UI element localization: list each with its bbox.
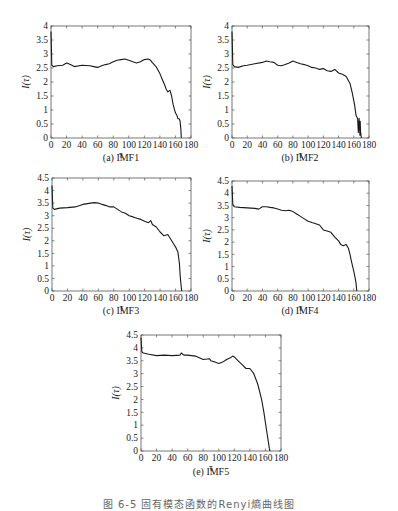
x-tick-label: 60: [183, 453, 193, 463]
y-tick-label: 3: [133, 369, 138, 379]
y-tick-label: 1: [133, 420, 138, 430]
x-tick-label: 0: [139, 453, 144, 463]
data-series-line: [141, 338, 270, 451]
y-tick-label: 4.5: [126, 330, 138, 340]
y-tick-label: 2.5: [126, 382, 138, 392]
y-tick-label: 2: [133, 395, 138, 405]
figure-caption: 图 6-5 固有模态函数的Renyi熵曲线图: [0, 496, 398, 511]
x-tick-label: 180: [274, 453, 289, 463]
y-axis-label: I(τ): [110, 386, 122, 401]
plot-imf5: 02040608010012014016018000.511.522.533.5…: [0, 0, 398, 480]
panel-imf5: 02040608010012014016018000.511.522.533.5…: [0, 0, 398, 480]
y-tick-label: 0.5: [126, 433, 138, 443]
x-tick-label: 140: [243, 453, 258, 463]
caption-imf5: (e) IMF5: [131, 466, 291, 477]
x-tick-label: 80: [198, 453, 208, 463]
y-tick-label: 4: [133, 343, 138, 353]
x-tick-label: 100: [212, 453, 227, 463]
x-tick-label: 40: [167, 453, 177, 463]
x-tick-label: 160: [258, 453, 273, 463]
y-tick-label: 0: [133, 446, 138, 456]
y-tick-label: 1.5: [126, 408, 138, 418]
y-tick-label: 3.5: [126, 356, 138, 366]
x-tick-label: 120: [227, 453, 242, 463]
x-tick-label: 20: [152, 453, 162, 463]
